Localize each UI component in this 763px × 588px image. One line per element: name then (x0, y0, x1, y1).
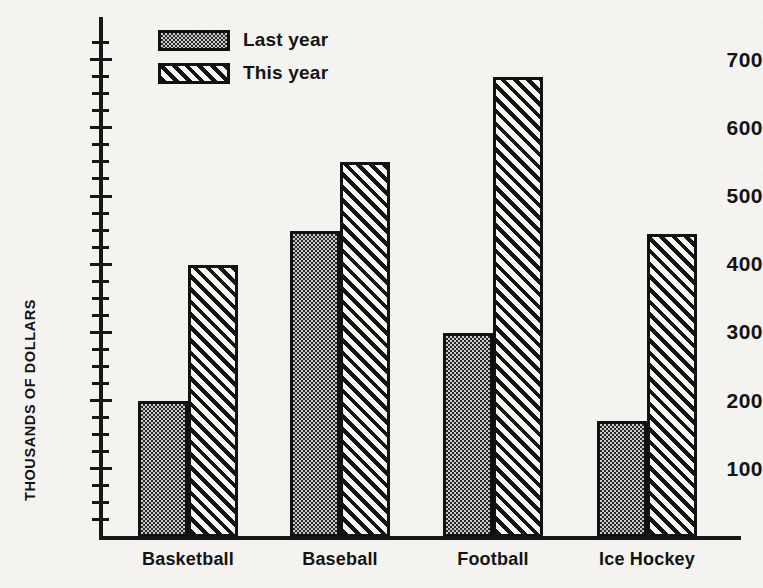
legend-entry-this-year: This year (158, 59, 328, 87)
y-axis-major-tick (90, 58, 112, 61)
y-axis-minor-tick (92, 348, 109, 351)
bar-baseball-last-year (290, 231, 340, 537)
y-axis-minor-tick (92, 297, 109, 300)
category-label-ice-hockey: Ice Hockey (599, 549, 695, 570)
y-axis-tick-label: 400 (705, 252, 763, 276)
category-label-basketball: Basketball (142, 549, 234, 570)
y-axis-minor-tick (92, 433, 109, 436)
bar-ice-hockey-this-year (647, 234, 697, 537)
y-axis-major-tick (90, 126, 112, 129)
y-axis-tick-label: 200 (705, 389, 763, 413)
bar-baseball-this-year (340, 162, 390, 537)
category-label-baseball: Baseball (302, 549, 378, 570)
y-axis-minor-tick (92, 246, 109, 249)
y-axis-minor-tick (92, 143, 109, 146)
y-axis-minor-tick (92, 450, 109, 453)
y-axis-minor-tick (92, 92, 109, 95)
y-axis-major-tick (90, 399, 112, 402)
y-axis-minor-tick (92, 501, 109, 504)
y-axis-minor-tick (92, 229, 109, 232)
y-axis-minor-tick (92, 212, 109, 215)
bar-football-last-year (443, 333, 493, 537)
y-axis-minor-tick (92, 41, 109, 44)
y-axis-major-tick (90, 195, 112, 198)
legend-label-last-year: Last year (243, 29, 328, 51)
legend-entry-last-year: Last year (158, 26, 328, 54)
legend-label-this-year: This year (243, 62, 328, 84)
y-axis-minor-tick (92, 177, 109, 180)
y-axis-minor-tick (92, 416, 109, 419)
bar-chart-figure: THOUSANDS OF DOLLARS 1002003004005006007… (0, 0, 763, 588)
legend-swatch-this-year-icon (158, 63, 230, 84)
y-axis-minor-tick (92, 109, 109, 112)
y-axis-tick-label: 500 (705, 184, 763, 208)
y-axis-minor-tick (92, 160, 109, 163)
chart-legend: Last year This year (158, 26, 328, 92)
y-axis-major-tick (90, 467, 112, 470)
y-axis-tick-label: 700 (705, 48, 763, 72)
bar-basketball-last-year (138, 401, 188, 537)
y-axis-minor-tick (92, 518, 109, 521)
bar-ice-hockey-last-year (597, 421, 647, 537)
y-axis-tick-label: 100 (705, 457, 763, 481)
y-axis-major-tick (90, 263, 112, 266)
y-axis-tick-label: 300 (705, 320, 763, 344)
category-label-football: Football (457, 549, 529, 570)
y-axis-minor-tick (92, 484, 109, 487)
bar-football-this-year (493, 77, 543, 537)
plot-area: THOUSANDS OF DOLLARS 1002003004005006007… (0, 0, 763, 588)
y-axis-minor-tick (92, 382, 109, 385)
y-axis-minor-tick (92, 365, 109, 368)
y-axis-major-tick (90, 331, 112, 334)
y-axis-minor-tick (92, 314, 109, 317)
y-axis-minor-tick (92, 75, 109, 78)
bar-basketball-this-year (188, 265, 238, 537)
y-axis-minor-tick (92, 280, 109, 283)
y-axis-title: THOUSANDS OF DOLLARS (22, 275, 38, 525)
legend-swatch-last-year-icon (158, 30, 230, 51)
y-axis-tick-label: 600 (705, 116, 763, 140)
y-axis-line (99, 17, 103, 540)
